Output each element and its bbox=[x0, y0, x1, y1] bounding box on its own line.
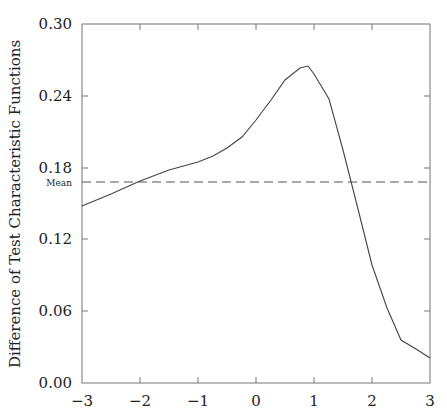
x-tick-label: 2 bbox=[367, 392, 377, 410]
x-tick-label: 3 bbox=[425, 392, 435, 410]
x-tick-label: −3 bbox=[71, 392, 93, 410]
y-ticks bbox=[82, 96, 430, 311]
x-tick-label: 0 bbox=[251, 392, 261, 410]
y-tick-label: 0.12 bbox=[39, 230, 72, 248]
y-tick-label: 0.30 bbox=[39, 15, 72, 33]
x-ticks bbox=[140, 24, 372, 383]
plot-frame bbox=[82, 24, 430, 383]
y-tick-label: 0.06 bbox=[39, 302, 72, 320]
y-tick-labels: 0.00 0.06 0.12 0.18 0.24 0.30 bbox=[39, 15, 72, 392]
chart: −3 −2 −1 0 1 2 3 0.00 0.06 0.12 0.18 0.2… bbox=[0, 0, 447, 420]
x-tick-label: −2 bbox=[129, 392, 151, 410]
x-tick-label: 1 bbox=[309, 392, 319, 410]
x-tick-label: −1 bbox=[187, 392, 209, 410]
y-tick-label: 0.18 bbox=[39, 159, 72, 177]
y-tick-label: 0.00 bbox=[39, 374, 72, 392]
y-tick-label: 0.24 bbox=[39, 87, 72, 105]
mean-label: Mean bbox=[46, 178, 72, 188]
y-axis-title: Difference of Test Characteristic Functi… bbox=[6, 40, 24, 368]
difference-curve bbox=[82, 66, 430, 358]
x-tick-labels: −3 −2 −1 0 1 2 3 bbox=[71, 392, 435, 410]
